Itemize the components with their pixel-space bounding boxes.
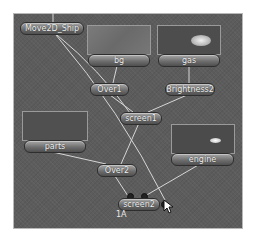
thumbnail-parts[interactable]	[22, 111, 88, 141]
node-over1[interactable]: Over1	[90, 83, 129, 96]
node-bg[interactable]: bg	[88, 54, 150, 67]
thumbnail-gas[interactable]	[157, 25, 221, 55]
gas-preview-image	[191, 35, 211, 46]
node-over2[interactable]: Over2	[97, 164, 137, 177]
node-engine[interactable]: engine	[171, 153, 234, 166]
caption-label: 1A	[116, 210, 127, 219]
thumbnail-bg[interactable]	[87, 25, 151, 55]
node-brightness2[interactable]: Brightness2	[165, 83, 215, 96]
node-parts[interactable]: parts	[24, 140, 86, 153]
node-screen1[interactable]: screen1	[120, 112, 162, 125]
engine-preview-image	[210, 138, 221, 143]
node-move2d-ship[interactable]: Move2D_Ship	[20, 22, 84, 35]
node-gas[interactable]: gas	[158, 54, 220, 67]
thumbnail-engine[interactable]	[171, 124, 235, 154]
mouse-cursor-icon	[163, 199, 175, 215]
